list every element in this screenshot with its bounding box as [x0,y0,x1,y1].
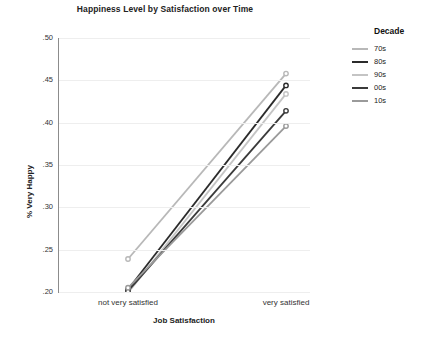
legend-swatch-icon [352,61,368,63]
legend-swatch-icon [352,74,368,76]
legend-item-label: 10s [374,96,386,105]
gridline [59,38,310,39]
x-tick-label: not very satisfied [78,298,178,307]
x-axis-title: Job Satisfaction [58,316,310,325]
data-point [284,71,288,75]
gridline [59,80,310,81]
legend-item-label: 80s [374,57,386,66]
y-tick-label: .25 [13,245,53,254]
plot-area [58,38,310,292]
legend-title: Decade [352,26,430,36]
gridline [59,123,310,124]
y-tick-label: .40 [13,118,53,127]
gridline [59,207,310,208]
legend-items: 70s80s90s00s10s [352,42,430,107]
gridline [59,250,310,251]
legend-swatch-icon [352,48,368,50]
legend-item-label: 90s [374,70,386,79]
y-tick-label: .35 [13,160,53,169]
gridline [59,165,310,166]
gridline [59,292,310,293]
data-point [284,83,288,87]
series-70s [126,71,288,261]
line-chart: Happiness Level by Satisfaction over Tim… [0,0,431,348]
legend-swatch-icon [352,100,368,102]
legend-swatch-icon [352,87,368,89]
y-tick-label: .20 [13,287,53,296]
data-point [284,92,288,96]
series-line [128,74,286,259]
legend-item-label: 00s [374,83,386,92]
y-tick-label: .45 [13,75,53,84]
chart-title: Happiness Level by Satisfaction over Tim… [0,4,330,14]
y-tick-label: .30 [13,202,53,211]
data-point [126,286,130,290]
legend: Decade 70s80s90s00s10s [352,26,430,107]
series-80s [126,83,288,291]
series-line [128,85,286,289]
legend-item-10s[interactable]: 10s [352,94,430,107]
y-tick-label: .50 [13,33,53,42]
data-point [284,124,288,128]
data-point [284,109,288,113]
legend-item-90s[interactable]: 90s [352,68,430,81]
data-point [126,257,130,261]
legend-item-label: 70s [374,44,386,53]
legend-item-80s[interactable]: 80s [352,55,430,68]
legend-item-00s[interactable]: 00s [352,81,430,94]
x-tick-label: very satisfied [236,298,336,307]
legend-item-70s[interactable]: 70s [352,42,430,55]
